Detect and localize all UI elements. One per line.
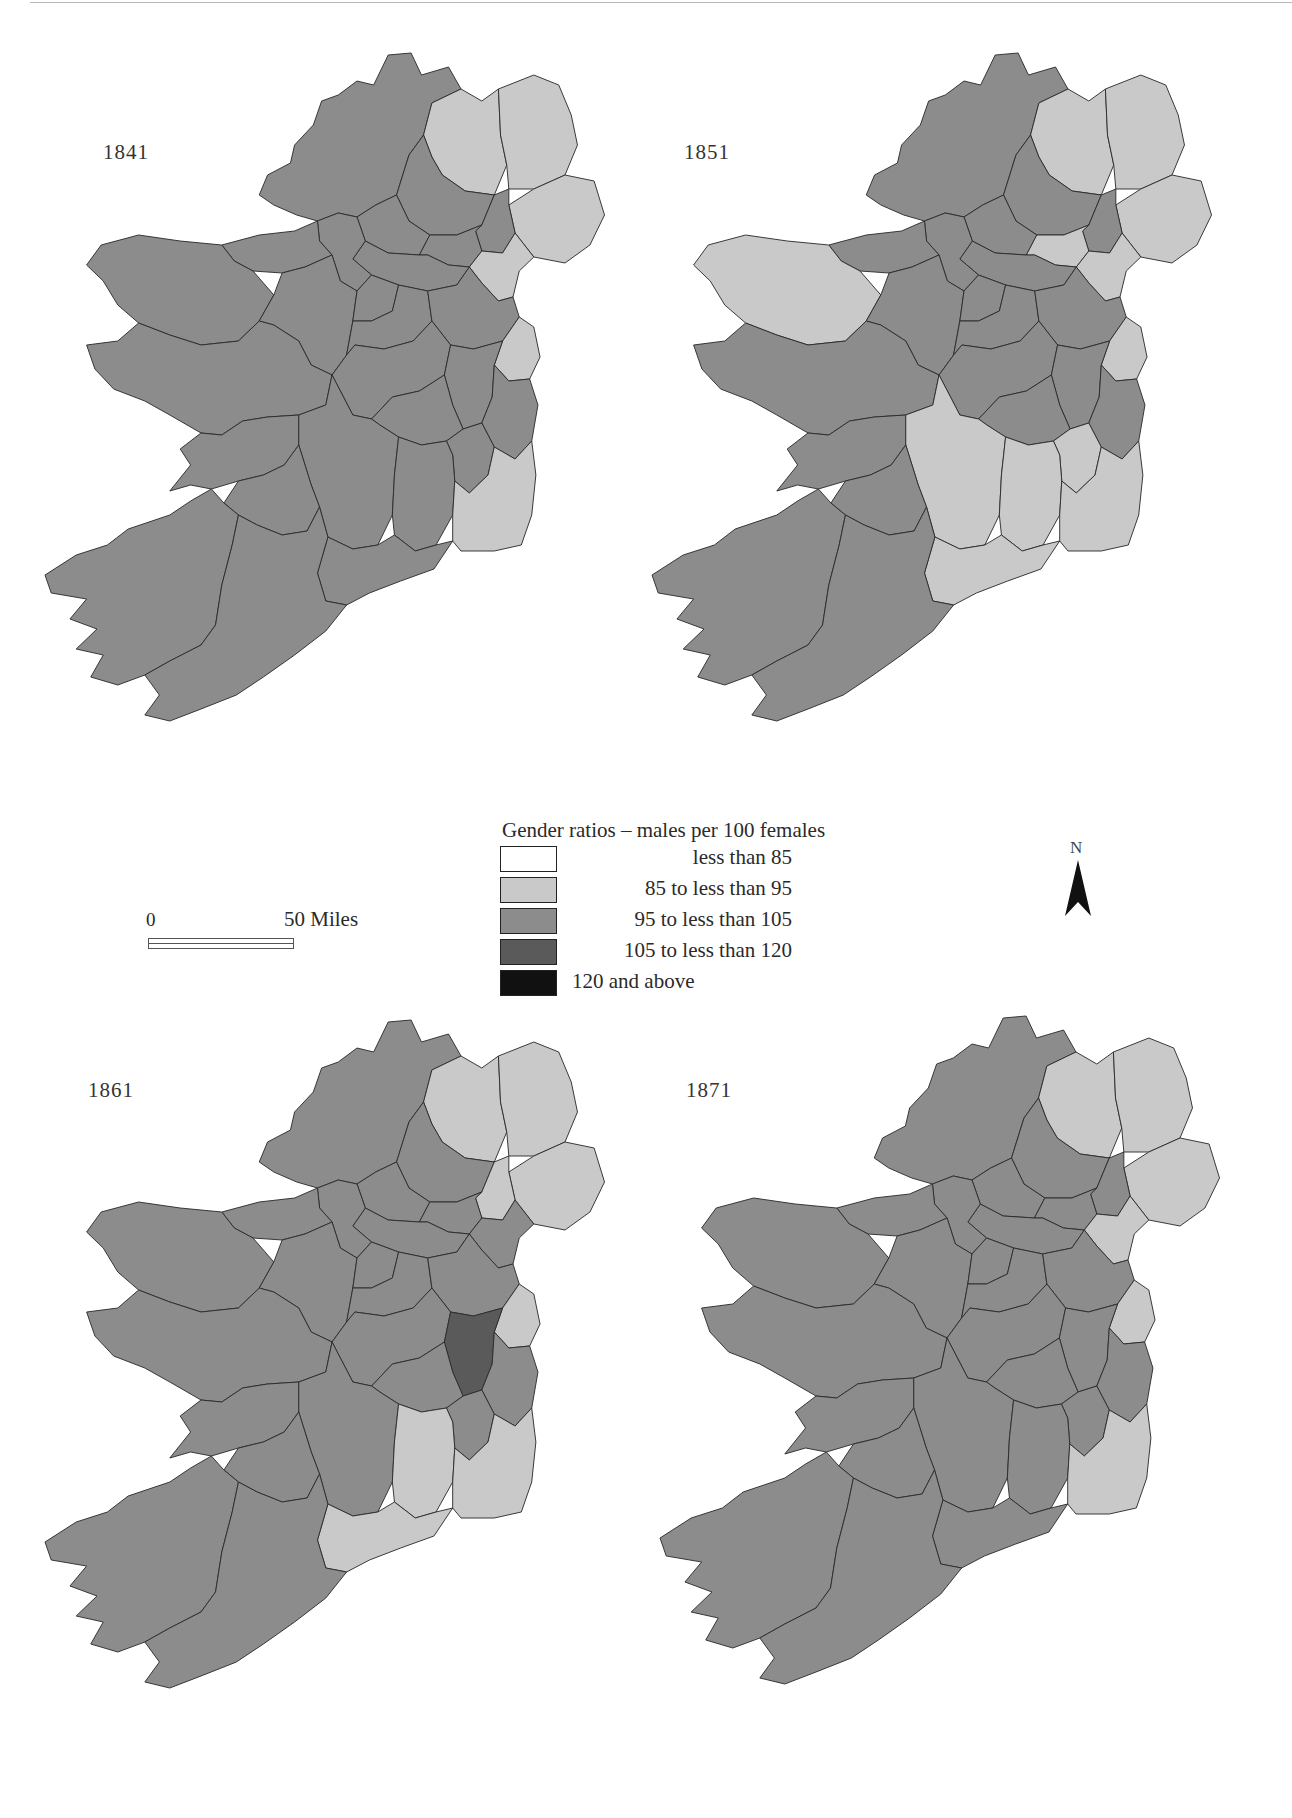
county-kilkenny [999,437,1061,551]
legend-item-85-95: 85 to less than 95 [480,874,930,905]
north-label: N [1070,838,1082,858]
scale-end-label: 50 Miles [284,907,358,932]
year-label-1861: 1861 [88,1078,134,1103]
legend-label: 120 and above [572,969,792,994]
map-1871 [660,1016,1220,1684]
county-antrim [498,75,577,189]
legend-label: 105 to less than 120 [572,938,792,963]
legend-label: 95 to less than 105 [572,907,792,932]
legend-item-120-plus: 120 and above [480,967,930,998]
county-kilkenny [1007,1400,1069,1514]
year-label-1871: 1871 [686,1078,732,1103]
legend-label: 85 to less than 95 [572,876,792,901]
north-arrow: N [1063,838,1103,918]
county-antrim [498,1042,577,1156]
legend-swatch [500,939,557,965]
north-arrow-icon [1063,858,1093,918]
scale-start-label: 0 [146,909,156,931]
county-antrim [1113,1038,1192,1152]
legend-item-95-105: 95 to less than 105 [480,905,930,936]
legend-swatch [500,970,557,996]
scale-bar: 0 50 Miles [146,905,376,965]
legend-swatch [500,908,557,934]
year-label-1841: 1841 [103,140,149,165]
scale-bar-graphic [148,938,294,949]
year-label-1851: 1851 [684,140,730,165]
legend-label: less than 85 [572,845,792,870]
legend-item-105-120: 105 to less than 120 [480,936,930,967]
county-antrim [1105,75,1184,189]
legend-swatch [500,846,557,872]
legend-title: Gender ratios – males per 100 females [502,818,930,843]
map-1861 [45,1020,605,1688]
legend: Gender ratios – males per 100 females le… [480,818,930,998]
legend-item-lt85: less than 85 [480,843,930,874]
county-kilkenny [392,1404,454,1518]
map-1851 [652,53,1212,721]
legend-swatch [500,877,557,903]
county-kilkenny [392,437,454,551]
